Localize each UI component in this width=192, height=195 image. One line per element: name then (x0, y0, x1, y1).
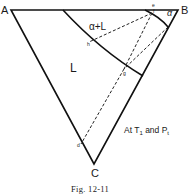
region-two-phase-label: α+L (89, 21, 107, 32)
vertex-c-label: C (91, 167, 99, 179)
triangle-outline (11, 10, 178, 164)
ternary-diagram: A B C L α+L α e f h g d At T1 and Pt Fig… (0, 0, 192, 195)
point-h-label: h (87, 41, 90, 47)
point-f-label: f (153, 8, 155, 14)
point-d-label: d (77, 142, 80, 148)
vertex-b-label: B (181, 4, 188, 16)
figure-caption: Fig. 12-11 (71, 184, 109, 194)
point-g-label: g (123, 70, 126, 76)
solidus-curve (145, 10, 168, 27)
region-solid-label: α (167, 8, 173, 18)
vertex-a-label: A (1, 4, 9, 16)
condition-label: At T1 and Pt (124, 125, 169, 136)
region-liquid-label: L (70, 61, 77, 75)
